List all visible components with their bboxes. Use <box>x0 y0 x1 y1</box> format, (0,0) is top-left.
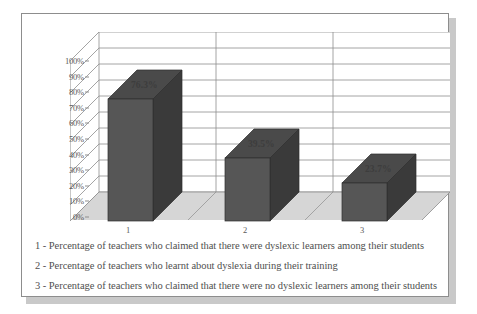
x-tick-label-3: 3 <box>347 226 377 235</box>
y-tick-70: 70% <box>42 104 84 113</box>
y-tick-mark-50 <box>85 139 89 140</box>
y-tick-mark-60 <box>85 123 89 124</box>
bar-value-label-3: 23.7% <box>365 164 392 174</box>
y-tick-mark-80 <box>85 92 89 93</box>
y-tick-mark-0 <box>85 217 89 218</box>
legend-line-3: 3 - Percentage of teachers who claimed t… <box>35 276 439 296</box>
y-tick-40: 40% <box>42 150 84 159</box>
y-tick-100: 100% <box>42 57 84 66</box>
y-axis-tick-labels: 100% 90% 80% 70% 60% 50% 40% 30% 20% 10%… <box>42 61 84 217</box>
y-tick-30: 30% <box>42 166 84 175</box>
y-tick-mark-20 <box>85 185 89 186</box>
x-tick-label-1: 1 <box>113 226 143 235</box>
y-tick-mark-10 <box>85 201 89 202</box>
chart-legend: 1 - Percentage of teachers who claimed t… <box>35 236 439 296</box>
chart-plot-area: 100% 90% 80% 70% 60% 50% 40% 30% 20% 10%… <box>22 14 450 226</box>
bar-value-label-2: 39.5% <box>248 139 275 149</box>
bars-layer <box>70 32 450 222</box>
y-tick-mark-40 <box>85 154 89 155</box>
y-tick-50: 50% <box>42 135 84 144</box>
y-tick-20: 20% <box>42 182 84 191</box>
y-tick-90: 90% <box>42 72 84 81</box>
y-tick-mark-30 <box>85 170 89 171</box>
y-tick-80: 80% <box>42 88 84 97</box>
y-tick-mark-90 <box>85 76 89 77</box>
x-tick-label-2: 2 <box>230 226 260 235</box>
legend-line-2: 2 - Percentage of teachers who learnt ab… <box>35 256 439 276</box>
legend-line-1: 1 - Percentage of teachers who claimed t… <box>35 236 439 256</box>
y-tick-mark-100 <box>85 61 89 62</box>
bar-value-label-1: 76.3% <box>131 80 158 90</box>
figure-frame: 100% 90% 80% 70% 60% 50% 40% 30% 20% 10%… <box>21 13 449 297</box>
bar-column-1 <box>108 70 182 221</box>
y-tick-0: 0% <box>42 213 84 222</box>
y-tick-60: 60% <box>42 119 84 128</box>
y-tick-10: 10% <box>42 197 84 206</box>
y-tick-mark-70 <box>85 107 89 108</box>
